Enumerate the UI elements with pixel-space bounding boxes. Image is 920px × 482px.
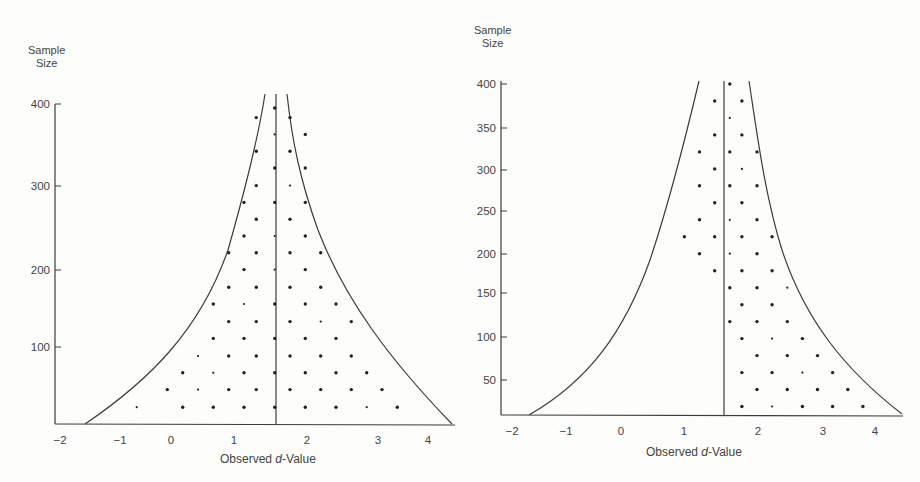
data-point xyxy=(770,235,773,238)
funnel-left-boundary xyxy=(529,81,699,415)
x-tick-label: 3 xyxy=(375,434,381,446)
data-point xyxy=(365,371,368,374)
data-point xyxy=(740,337,743,340)
data-point xyxy=(304,166,307,169)
y-tick-label: 400 xyxy=(477,78,496,90)
data-point xyxy=(227,286,230,289)
data-point xyxy=(729,219,731,221)
data-point xyxy=(713,167,716,170)
data-point xyxy=(770,371,773,374)
data-point xyxy=(255,388,258,391)
data-point xyxy=(786,354,789,357)
y-tick-label: 150 xyxy=(477,287,496,299)
x-tick-label: 0 xyxy=(168,434,174,446)
data-point xyxy=(255,354,258,357)
funnel-right-boundary xyxy=(749,81,902,414)
data-point xyxy=(288,218,291,221)
data-point xyxy=(740,99,743,102)
x-axis-line xyxy=(55,424,455,425)
data-point xyxy=(728,184,731,187)
x-tick-label: −1 xyxy=(113,434,126,446)
data-point xyxy=(273,302,276,305)
data-point xyxy=(288,251,291,254)
x-tick-label: 1 xyxy=(231,434,237,446)
data-point xyxy=(698,218,701,221)
data-point xyxy=(728,286,731,289)
x-tick-label: 4 xyxy=(872,425,879,437)
data-point xyxy=(334,302,337,305)
x-tick-label: −1 xyxy=(559,425,572,437)
data-point xyxy=(755,354,758,357)
data-point xyxy=(755,150,758,153)
x-axis-title: Observed d-Value xyxy=(646,445,742,459)
data-point xyxy=(304,234,307,237)
data-point xyxy=(288,388,291,391)
data-point xyxy=(729,253,731,255)
data-point xyxy=(740,235,743,238)
data-point xyxy=(212,372,214,374)
data-point xyxy=(273,337,276,340)
data-point xyxy=(319,354,322,357)
y-tick-label: 250 xyxy=(477,205,496,217)
data-point xyxy=(304,406,307,409)
data-point xyxy=(197,355,199,357)
data-point xyxy=(740,303,743,306)
data-point xyxy=(255,218,258,221)
data-point xyxy=(366,406,368,408)
data-point xyxy=(786,320,789,323)
data-point xyxy=(755,388,758,391)
data-point xyxy=(273,371,276,374)
y-tick-label: 200 xyxy=(477,248,496,260)
data-point xyxy=(273,106,276,109)
data-point xyxy=(786,388,789,391)
data-point xyxy=(227,354,230,357)
data-point xyxy=(181,371,184,374)
x-tick-label: 4 xyxy=(425,434,432,446)
data-point xyxy=(136,406,138,408)
data-point xyxy=(683,235,686,238)
data-point xyxy=(380,388,383,391)
data-point xyxy=(242,234,245,237)
data-point xyxy=(181,406,184,409)
data-point xyxy=(255,286,258,289)
data-point xyxy=(713,269,716,272)
data-point xyxy=(831,405,834,408)
data-point xyxy=(861,405,864,408)
data-point xyxy=(728,82,731,85)
data-point xyxy=(740,371,743,374)
data-point xyxy=(166,388,169,391)
data-point xyxy=(274,269,276,271)
data-point xyxy=(740,133,743,136)
funnel-right-boundary xyxy=(287,94,452,424)
y-tick-label: 300 xyxy=(477,164,496,176)
data-point xyxy=(713,133,716,136)
data-point xyxy=(816,388,819,391)
data-point xyxy=(227,320,230,323)
data-point xyxy=(334,371,337,374)
data-point xyxy=(801,337,804,340)
data-point xyxy=(288,320,291,323)
data-point xyxy=(831,371,834,374)
x-axis-title: Observed d-Value xyxy=(220,452,316,466)
data-point xyxy=(786,287,788,289)
data-point xyxy=(729,117,731,119)
plot-area: 400300200100−2−101234 xyxy=(0,0,460,482)
data-point xyxy=(242,337,245,340)
data-point xyxy=(212,302,215,305)
data-point xyxy=(288,150,291,153)
data-point xyxy=(755,184,758,187)
y-tick-label: 400 xyxy=(31,98,50,110)
data-point xyxy=(304,268,307,271)
data-point xyxy=(304,133,307,136)
x-axis-line xyxy=(501,415,903,416)
data-point xyxy=(713,99,716,102)
data-point xyxy=(304,337,307,340)
data-point xyxy=(713,201,716,204)
funnel-left-boundary xyxy=(85,94,265,424)
data-point xyxy=(227,388,230,391)
data-point xyxy=(304,302,307,305)
data-point xyxy=(350,388,353,391)
data-point xyxy=(713,235,716,238)
data-point xyxy=(274,235,276,237)
x-tick-label: 2 xyxy=(755,425,761,437)
